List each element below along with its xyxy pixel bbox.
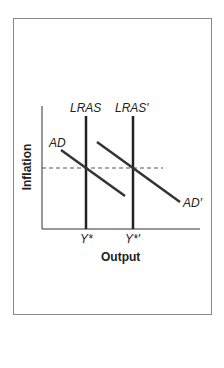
lras-label: LRAS bbox=[70, 101, 101, 115]
ad-prime-label: AD′ bbox=[183, 196, 202, 210]
ad-line bbox=[61, 150, 125, 196]
ad-prime-line bbox=[97, 142, 180, 202]
x-axis-label: Output bbox=[101, 250, 140, 264]
y-star-prime-label: Y*′ bbox=[125, 232, 140, 246]
y-star-label: Y* bbox=[80, 232, 93, 246]
y-axis-label: Inflation bbox=[20, 137, 34, 197]
lras-prime-label: LRAS′ bbox=[115, 101, 149, 115]
ad-label: AD bbox=[49, 136, 66, 150]
